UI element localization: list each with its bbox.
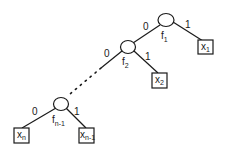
node-label-f2: f2 bbox=[122, 56, 129, 69]
tree-svg: 0 1 0 1 0 1 f1 f2 fn-1 x1 x2 xn xn-1 bbox=[0, 0, 227, 154]
node-f1 bbox=[158, 14, 174, 27]
node-fn-1 bbox=[54, 98, 69, 111]
edge-label-fn1-0: 0 bbox=[32, 106, 38, 117]
node-label-fn-1: fn-1 bbox=[52, 114, 65, 127]
edge-label-f2-0: 0 bbox=[104, 48, 110, 59]
decision-tree-diagram: 0 1 0 1 0 1 f1 f2 fn-1 x1 x2 xn xn-1 bbox=[0, 0, 227, 154]
edge-label-f2-1: 1 bbox=[145, 51, 151, 62]
node-label-f1: f1 bbox=[161, 30, 168, 43]
edge-label-f1-1: 1 bbox=[185, 19, 191, 30]
edge-fn1-xn bbox=[22, 108, 56, 128]
edge-f2-fn1-dotted bbox=[70, 68, 101, 94]
edge-label-f1-0: 0 bbox=[143, 21, 149, 32]
edge-label-fn1-1: 1 bbox=[74, 106, 80, 117]
node-f2 bbox=[121, 41, 136, 54]
